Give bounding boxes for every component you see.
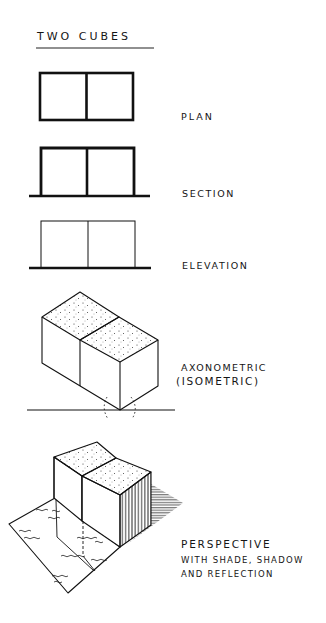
elevation-label: ELEVATION [182,261,249,271]
section-view [29,148,150,196]
section-label: SECTION [182,189,235,199]
isometric-sublabel: (ISOMETRIC) [176,376,260,387]
plan-view [40,73,133,120]
two-cubes-drawing [0,0,326,623]
axonometric-label: AXONOMETRIC [181,363,267,373]
perspective-sublabel-1: WITH SHADE, SHADOW [181,556,304,565]
drawing-title: TWO CUBES [37,31,131,42]
plan-label: PLAN [181,112,214,122]
perspective-view [9,442,183,593]
elevation-view [29,221,151,268]
perspective-sublabel-2: AND REFLECTION [181,570,274,579]
axonometric-view [27,292,175,419]
perspective-label: PERSPECTIVE [181,539,271,550]
